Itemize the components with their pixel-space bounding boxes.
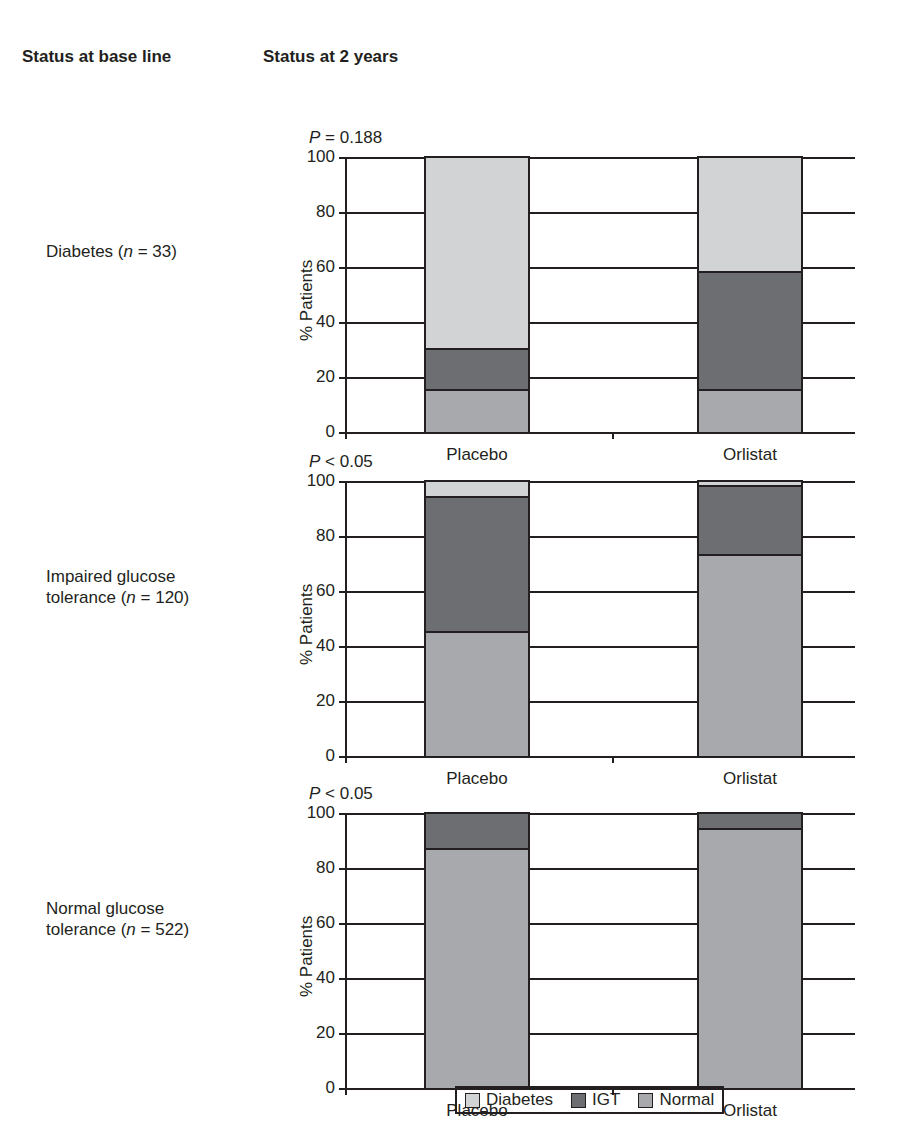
y-tick-label: 100 xyxy=(305,803,335,823)
y-tick-label: 60 xyxy=(305,913,335,933)
header-two-years: Status at 2 years xyxy=(263,47,398,67)
x-tick-label: Orlistat xyxy=(670,769,830,789)
y-tick-label: 40 xyxy=(305,968,335,988)
y-tick-label: 0 xyxy=(305,746,335,766)
bar-segment-normal xyxy=(426,391,528,432)
legend-item-normal: Normal xyxy=(638,1090,714,1110)
y-tick-label: 20 xyxy=(305,1023,335,1043)
y-tick-label: 20 xyxy=(305,367,335,387)
legend-item-igt: IGT xyxy=(571,1090,620,1110)
bar-segment-normal xyxy=(426,633,528,756)
bar-segment-igt xyxy=(426,350,528,391)
y-tick-label: 80 xyxy=(305,858,335,878)
y-tick-label: 60 xyxy=(305,581,335,601)
bar-segment-normal xyxy=(699,391,801,432)
p-value: P < 0.05 xyxy=(309,452,373,472)
y-tick-label: 100 xyxy=(305,147,335,167)
bar-segment-igt xyxy=(699,273,801,391)
y-axis xyxy=(345,158,347,439)
bar-segment-igt xyxy=(426,498,528,632)
bar-segment-diabetes xyxy=(699,158,801,273)
bar-segment-diabetes xyxy=(426,482,528,498)
y-tick-label: 40 xyxy=(305,636,335,656)
bar-segment-normal xyxy=(426,850,528,1088)
legend: Diabetes IGT Normal xyxy=(455,1086,724,1114)
y-tick-label: 0 xyxy=(305,422,335,442)
y-axis xyxy=(345,482,347,763)
bar-orlistat xyxy=(697,480,803,758)
header-baseline: Status at base line xyxy=(22,47,171,67)
row-label-diabetes: Diabetes (n = 33) xyxy=(46,241,177,262)
bar-segment-igt xyxy=(699,814,801,830)
x-tick-label: Orlistat xyxy=(670,445,830,465)
bar-placebo xyxy=(424,812,530,1090)
y-tick-label: 40 xyxy=(305,312,335,332)
legend-swatch-igt xyxy=(571,1093,586,1108)
x-tick xyxy=(612,433,614,439)
legend-swatch-normal xyxy=(638,1093,653,1108)
y-tick-label: 80 xyxy=(305,526,335,546)
y-tick-label: 60 xyxy=(305,257,335,277)
x-tick-label: Placebo xyxy=(397,769,557,789)
bar-orlistat xyxy=(697,812,803,1090)
bar-placebo xyxy=(424,156,530,434)
x-tick xyxy=(612,757,614,763)
x-tick-label: Placebo xyxy=(397,445,557,465)
bar-orlistat xyxy=(697,156,803,434)
bar-segment-normal xyxy=(699,556,801,756)
bar-segment-normal xyxy=(699,830,801,1088)
y-tick-label: 80 xyxy=(305,202,335,222)
y-tick-label: 20 xyxy=(305,691,335,711)
p-value: P < 0.05 xyxy=(309,784,373,804)
legend-item-diabetes: Diabetes xyxy=(465,1090,553,1110)
bar-segment-diabetes xyxy=(426,158,528,350)
bar-segment-igt xyxy=(699,487,801,556)
y-axis xyxy=(345,814,347,1095)
row-label-igt: Impaired glucose tolerance (n = 120) xyxy=(46,566,189,608)
bar-placebo xyxy=(424,480,530,758)
y-tick-label: 0 xyxy=(305,1078,335,1098)
y-tick-label: 100 xyxy=(305,471,335,491)
bar-segment-igt xyxy=(426,814,528,850)
row-label-ngt: Normal glucose tolerance (n = 522) xyxy=(46,898,189,940)
p-value: P = 0.188 xyxy=(309,128,382,148)
legend-swatch-diabetes xyxy=(465,1093,480,1108)
